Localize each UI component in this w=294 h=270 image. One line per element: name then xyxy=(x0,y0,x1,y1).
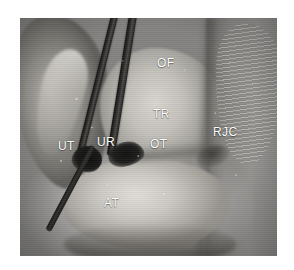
label-tr: TR xyxy=(153,108,170,120)
specimen-photograph: OF TR OT RJC UT UR AT xyxy=(20,18,277,256)
label-of: OF xyxy=(157,57,174,69)
right-fibrous-capsule-texture xyxy=(216,24,277,164)
label-ot: OT xyxy=(150,138,167,150)
label-ur: UR xyxy=(97,136,115,148)
label-at: AT xyxy=(104,197,119,209)
label-rjc: RJC xyxy=(213,126,238,138)
figure-root: OF TR OT RJC UT UR AT xyxy=(0,0,294,270)
label-ut: UT xyxy=(58,140,75,152)
